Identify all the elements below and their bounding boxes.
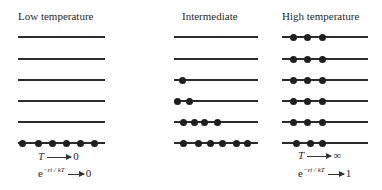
- energy-level-3: [174, 100, 258, 102]
- energy-level-2: [18, 121, 105, 123]
- particle-dot: [233, 140, 240, 147]
- energy-level-6: [174, 36, 258, 38]
- particle-dot: [319, 56, 326, 63]
- energy-level-4: [18, 79, 105, 81]
- panel-title: Low temperature: [18, 10, 93, 22]
- particle-dot: [244, 140, 251, 147]
- limit-value: 1: [346, 167, 352, 179]
- particle-dot: [293, 140, 300, 147]
- particle-dot: [304, 77, 311, 84]
- energy-level-6: [18, 36, 105, 38]
- temperature-symbol: T: [38, 150, 44, 162]
- particle-dot: [290, 98, 297, 105]
- particle-dot: [63, 140, 70, 147]
- panel-intermediate: Intermediate: [160, 0, 270, 190]
- limit-value: 0: [86, 167, 92, 179]
- panel-high-temperature: High temperature T∞ e−εi / kT1: [260, 0, 382, 190]
- particle-dot: [319, 140, 326, 147]
- particle-dot: [304, 34, 311, 41]
- limit-temperature-low: T0: [38, 150, 79, 162]
- particle-dot: [304, 98, 311, 105]
- particle-dot: [207, 140, 214, 147]
- energy-level-6: [282, 36, 368, 38]
- energy-level-2: [282, 121, 368, 123]
- particle-dot: [49, 140, 56, 147]
- particle-dot: [174, 98, 181, 105]
- limit-boltzmann-low: e−εi / kT0: [38, 166, 91, 179]
- energy-level-1-ground: [18, 142, 105, 144]
- particle-dot: [91, 140, 98, 147]
- limit-value: 0: [73, 150, 79, 162]
- particle-dot: [186, 98, 193, 105]
- particle-dot: [319, 77, 326, 84]
- particle-dot: [307, 140, 314, 147]
- particle-dot: [191, 119, 198, 126]
- particle-dot: [290, 77, 297, 84]
- panel-title: High temperature: [282, 10, 359, 22]
- particle-dot: [180, 119, 187, 126]
- particle-dot: [304, 119, 311, 126]
- energy-level-1-ground: [174, 142, 258, 144]
- arrow-right-icon: [307, 156, 331, 157]
- limit-value: ∞: [333, 149, 341, 161]
- particle-dot: [214, 119, 221, 126]
- energy-level-4: [174, 79, 258, 81]
- particle-dot: [290, 119, 297, 126]
- particle-dot: [180, 140, 187, 147]
- energy-level-3: [282, 100, 368, 102]
- particle-dot: [319, 98, 326, 105]
- particle-dot: [290, 34, 297, 41]
- temperature-symbol: T: [298, 149, 304, 161]
- limit-temperature-high: T∞: [298, 149, 341, 161]
- particle-dot: [219, 140, 226, 147]
- particle-dot: [319, 119, 326, 126]
- particle-dot: [304, 56, 311, 63]
- particle-dot: [319, 34, 326, 41]
- panel-low-temperature: Low temperature T0 e−εi / kT0: [0, 0, 130, 190]
- energy-level-3: [18, 100, 105, 102]
- limit-boltzmann-high: e−εi / kT1: [298, 166, 351, 179]
- particle-dot: [77, 140, 84, 147]
- particle-dot: [19, 140, 26, 147]
- particle-dot: [195, 140, 202, 147]
- energy-level-4: [282, 79, 368, 81]
- energy-level-1-ground: [282, 142, 368, 144]
- energy-level-5: [18, 58, 105, 60]
- arrow-right-icon: [68, 174, 84, 175]
- energy-level-2: [174, 121, 258, 123]
- energy-level-5: [174, 58, 258, 60]
- particle-dot: [35, 140, 42, 147]
- particle-dot: [179, 77, 186, 84]
- exp-exponent: −εi / kT: [303, 166, 325, 174]
- arrow-right-icon: [47, 157, 71, 158]
- arrow-right-icon: [328, 174, 344, 175]
- particle-dot: [201, 119, 208, 126]
- exp-exponent: −εi / kT: [43, 166, 65, 174]
- panel-title: Intermediate: [182, 10, 238, 22]
- energy-level-5: [282, 58, 368, 60]
- particle-dot: [290, 56, 297, 63]
